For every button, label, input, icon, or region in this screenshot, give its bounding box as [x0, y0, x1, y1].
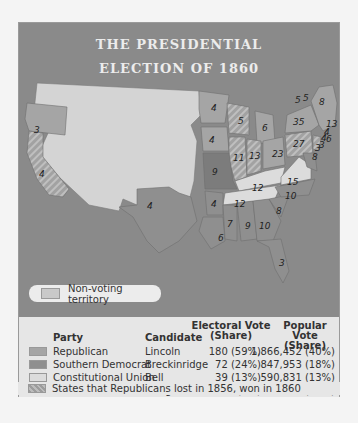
svg-text:9: 9: [245, 221, 251, 231]
legend-row-flipped-states: States that Republicans lost in 1856, wo…: [18, 382, 340, 395]
non-voting-swatch: [41, 288, 60, 299]
popular-vote: 847,953 (18%): [260, 358, 335, 371]
svg-text:3: 3: [279, 258, 285, 268]
candidate-name: Lincoln: [145, 345, 180, 358]
svg-text:27: 27: [293, 139, 305, 149]
svg-text:5: 5: [303, 93, 309, 103]
state-oregon: [25, 103, 67, 135]
party-name: Republican: [53, 345, 108, 358]
state-iowa: [201, 127, 229, 151]
svg-text:35: 35: [293, 117, 305, 127]
svg-text:6: 6: [218, 233, 224, 243]
svg-text:13: 13: [249, 151, 261, 161]
svg-text:3: 3: [34, 125, 40, 135]
title-line-2: ELECTION OF 1860: [19, 57, 339, 81]
legend-row-southern-democrat: Southern Democrat Breckinridge 72 (24%) …: [19, 358, 339, 371]
header-party: Party: [53, 333, 83, 343]
svg-text:4: 4: [209, 135, 215, 145]
svg-text:5: 5: [295, 95, 301, 105]
non-voting-label: Non-voting territory: [68, 283, 161, 305]
header-electoral: Electoral Vote (Share): [191, 321, 271, 341]
svg-text:12: 12: [234, 199, 246, 209]
party-name: Southern Democrat: [53, 358, 151, 371]
map-frame: THE PRESIDENTIAL ELECTION OF 1860: [18, 22, 340, 397]
svg-text:8: 8: [312, 152, 318, 162]
svg-text:6: 6: [262, 123, 268, 133]
svg-text:7: 7: [227, 219, 233, 229]
svg-text:15: 15: [287, 177, 299, 187]
hatched-swatch: [28, 384, 46, 393]
republican-swatch: [29, 347, 47, 356]
header-popular-line1: Popular Vote: [269, 321, 341, 341]
svg-text:4: 4: [211, 199, 217, 209]
svg-text:6: 6: [326, 134, 332, 144]
svg-text:4: 4: [211, 103, 217, 113]
svg-text:12: 12: [252, 183, 264, 193]
header-electoral-line2: (Share): [191, 331, 271, 341]
svg-text:4: 4: [39, 169, 45, 179]
svg-text:10: 10: [259, 221, 271, 231]
legend-row-republican: Republican Lincoln 180 (59%) 1,866,452 (…: [19, 345, 339, 358]
svg-text:8: 8: [319, 97, 325, 107]
flipped-states-note: States that Republicans lost in 1856, wo…: [52, 382, 301, 395]
candidate-name: Breckinridge: [145, 358, 208, 371]
electoral-vote: 72 (24%): [215, 358, 261, 371]
svg-text:11: 11: [233, 153, 244, 163]
map-title: THE PRESIDENTIAL ELECTION OF 1860: [19, 33, 339, 81]
title-line-1: THE PRESIDENTIAL: [19, 33, 339, 57]
svg-text:23: 23: [272, 149, 284, 159]
svg-text:9: 9: [212, 167, 218, 177]
svg-text:4: 4: [147, 201, 153, 211]
us-election-map: 3 4 4 4 4 9 4 6 5 6 11 13 23 12 12 7 9 1…: [19, 81, 339, 293]
southern-democrat-swatch: [29, 360, 47, 369]
svg-text:10: 10: [285, 191, 297, 201]
non-voting-territory-key: Non-voting territory: [29, 285, 161, 302]
popular-vote: 1,866,452 (40%): [251, 345, 335, 358]
svg-text:8: 8: [276, 206, 282, 216]
constitutional-union-swatch: [29, 373, 47, 382]
svg-text:5: 5: [238, 116, 244, 126]
